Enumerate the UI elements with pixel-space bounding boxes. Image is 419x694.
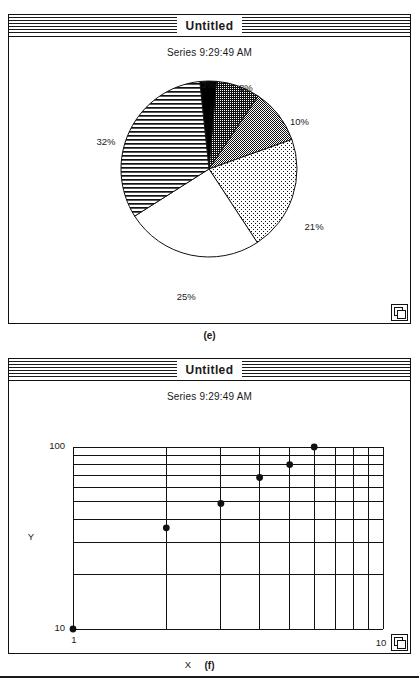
pie-slice-label: 32% [96,136,115,147]
pie-slice-label: 3% [201,78,215,89]
window-titlebar[interactable]: Untitled [9,359,410,381]
window-titlebar[interactable]: Untitled [9,15,410,37]
pie-slice-label: 8% [239,81,253,92]
resize-grow-box-icon[interactable] [391,634,408,651]
y-axis-title: Y [28,531,34,542]
scatter-data-point[interactable] [70,626,77,633]
window-scatter-chart[interactable]: Untitled Series 9:29:49 AM 10010110YX [8,358,411,654]
pie-slice-label: 25% [177,290,196,301]
window-title: Untitled [177,359,243,381]
scatter-data-point[interactable] [311,444,318,451]
scatter-data-point[interactable] [218,500,225,507]
pie-svg [119,79,299,259]
scatter-data-point[interactable] [286,461,293,468]
pie-graphic [119,79,299,259]
figure-caption-f: (f) [0,660,419,671]
pie-slice-label: 10% [290,115,309,126]
grow-box-square-front [397,310,406,319]
figure-caption-e: (e) [0,330,419,341]
scatter-data-point[interactable] [256,474,263,481]
grow-box-square-front [397,640,406,649]
chart-subtitle: Series 9:29:49 AM [9,47,410,58]
resize-grow-box-icon[interactable] [391,304,408,321]
pie-slice-label: 21% [305,221,324,232]
y-tick-label-top: 100 [49,440,65,451]
window-pie-chart[interactable]: Untitled Series 9:29:49 AM 3%8%10%21%25%… [8,14,411,324]
x-tick-label-right: 10 [376,637,387,648]
scatter-data-point[interactable] [163,524,170,531]
scatter-chart-canvas: Series 9:29:49 AM 10010110YX [9,381,410,653]
window-title: Untitled [177,15,243,37]
page-bottom-rule [0,676,419,678]
pie-chart-canvas: Series 9:29:49 AM 3%8%10%21%25%32% [9,37,410,323]
x-tick-label-left: 1 [71,634,76,645]
scatter-plot-svg [9,381,412,653]
y-tick-label-bottom: 10 [54,622,65,633]
